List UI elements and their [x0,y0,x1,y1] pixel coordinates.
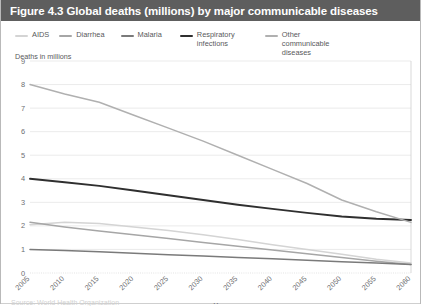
series-line-respiratory-infections [30,179,411,220]
svg-text:2010: 2010 [48,274,66,292]
x-axis-tick-label: 2035 [221,274,239,292]
svg-text:2055: 2055 [360,274,378,292]
y-axis-tick-label: 1 [21,245,25,254]
line-swatch-icon [180,35,193,37]
legend-item-respiratory-infections[interactable]: Respiratory infections [180,30,249,48]
x-axis-tick-label: 2045 [291,274,309,292]
svg-text:2015: 2015 [83,274,101,292]
line-swatch-icon [59,35,72,37]
legend-item-aids[interactable]: AIDS [15,30,49,39]
line-chart: 0123456789200520102015202020252030203520… [1,59,421,304]
svg-text:2050: 2050 [325,274,343,292]
x-axis-tick-label: 2015 [83,274,101,292]
y-axis-tick-label: 4 [21,174,25,183]
series-line-malaria [30,249,411,264]
series-line-diarrhea [30,222,411,264]
chart-panel: AIDS Diarrhea Malaria Respiratory infect… [1,21,420,304]
svg-text:2030: 2030 [187,274,205,292]
x-axis-tick-label: 2025 [152,274,170,292]
x-axis-tick-label: 2005 [13,274,31,292]
legend-item-diarrhea[interactable]: Diarrhea [59,30,104,39]
x-axis-tick-label: 2030 [187,274,205,292]
legend-label: Diarrhea [76,30,104,39]
legend-item-other-communicable-diseases[interactable]: Other communicable diseases [265,30,344,57]
y-axis-tick-label: 5 [21,151,25,160]
legend-item-malaria[interactable]: Malaria [121,30,162,39]
svg-text:2040: 2040 [256,274,274,292]
svg-text:2035: 2035 [221,274,239,292]
y-axis-tick-label: 2 [21,221,25,230]
source-note: Source: World Health Organization [11,299,119,306]
line-swatch-icon [121,35,134,37]
y-axis-tick-label: 3 [21,198,25,207]
legend-label: Other communicable diseases [282,30,344,57]
y-axis-tick-label: 8 [21,80,25,89]
x-axis-tick-label: 2010 [48,274,66,292]
legend-label: Malaria [138,30,162,39]
page-title: Figure 4.3 Global deaths (millions) by m… [10,5,378,17]
x-axis-tick-label: 2060 [394,274,412,292]
svg-text:2020: 2020 [117,274,135,292]
y-axis-tick-label: 7 [21,104,25,113]
x-axis-tick-label: 2040 [256,274,274,292]
line-swatch-icon [265,35,278,37]
plot-area: 0123456789200520102015202020252030203520… [1,59,421,304]
legend-label: Respiratory infections [197,30,249,48]
x-axis-tick-label: 2055 [360,274,378,292]
x-axis-tick-label: 2020 [117,274,135,292]
legend-label: AIDS [32,30,49,39]
figure-title-bar: Figure 4.3 Global deaths (millions) by m… [1,0,420,21]
y-axis-tick-label: 6 [21,127,25,136]
x-axis-tick-label: 2050 [325,274,343,292]
svg-text:2045: 2045 [291,274,309,292]
svg-text:2005: 2005 [13,274,31,292]
line-swatch-icon [15,35,28,37]
x-axis-title: Year [213,302,228,304]
svg-text:2025: 2025 [152,274,170,292]
svg-text:2060: 2060 [394,274,412,292]
y-axis-tick-label: 9 [21,59,25,66]
